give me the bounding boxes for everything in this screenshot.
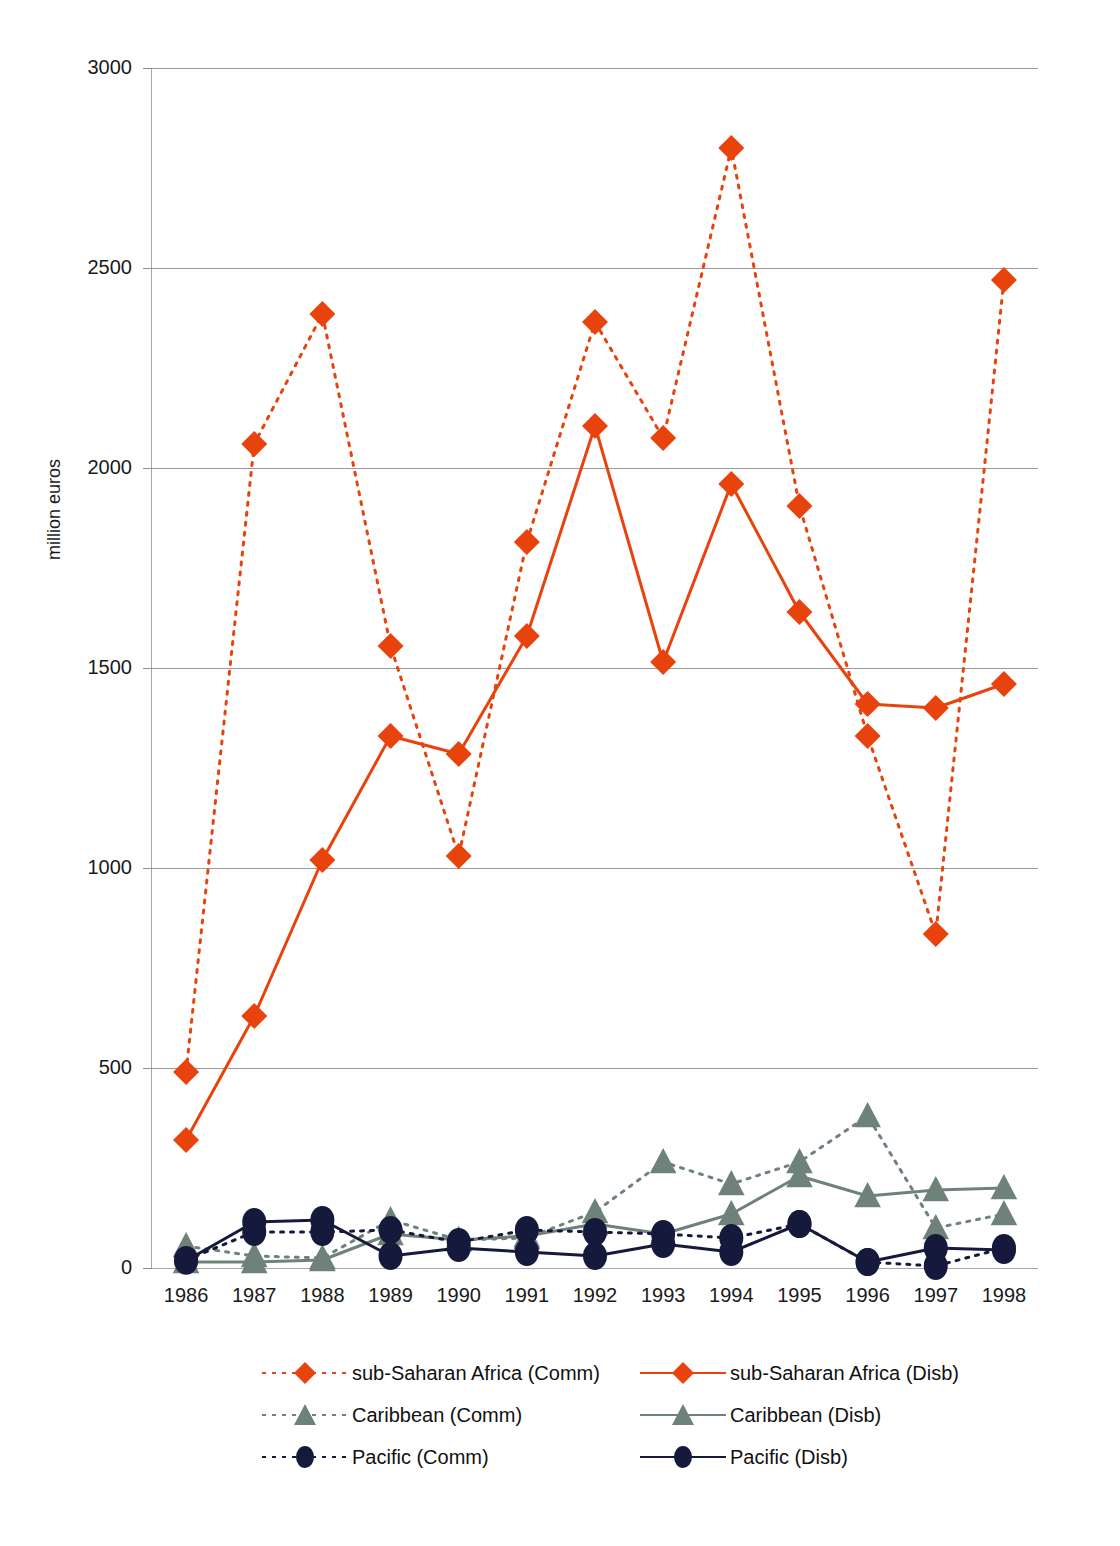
y-tick-mark bbox=[143, 868, 152, 869]
x-tick-label: 1998 bbox=[964, 1284, 1044, 1307]
legend-item-pacific-comm[interactable]: Pacific (Comm) bbox=[262, 1436, 489, 1478]
legend-label: Pacific (Disb) bbox=[726, 1446, 848, 1469]
legend-item-caribbean-comm[interactable]: Caribbean (Comm) bbox=[262, 1394, 522, 1436]
series-sub-saharan-africa-disb bbox=[173, 413, 1017, 1153]
legend-row: sub-Saharan Africa (Comm) sub-Saharan Af… bbox=[262, 1352, 962, 1394]
y-tick-label: 1000 bbox=[62, 857, 132, 877]
legend-row: Pacific (Comm) Pacific (Disb) bbox=[262, 1436, 962, 1478]
legend-label: Caribbean (Disb) bbox=[726, 1404, 881, 1427]
gridline bbox=[152, 268, 1038, 269]
legend-swatch-pacific-comm-icon bbox=[262, 1444, 348, 1470]
series-pacific-disb bbox=[174, 1206, 1016, 1276]
y-tick-label: 0 bbox=[62, 1257, 132, 1277]
y-tick-label: 2000 bbox=[62, 457, 132, 477]
legend-label: sub-Saharan Africa (Comm) bbox=[348, 1362, 600, 1385]
gridline bbox=[152, 668, 1038, 669]
legend-item-pacific-disb[interactable]: Pacific (Disb) bbox=[640, 1436, 848, 1478]
series-sub-saharan-africa-comm bbox=[173, 135, 1017, 1085]
legend-row: Caribbean (Comm) Caribbean (Disb) bbox=[262, 1394, 962, 1436]
y-tick-mark bbox=[143, 1268, 152, 1269]
legend-label: sub-Saharan Africa (Disb) bbox=[726, 1362, 959, 1385]
gridline bbox=[152, 1068, 1038, 1069]
legend-item-caribbean-disb[interactable]: Caribbean (Disb) bbox=[640, 1394, 881, 1436]
gridline bbox=[152, 68, 1038, 69]
y-tick-mark bbox=[143, 668, 152, 669]
y-tick-mark bbox=[143, 468, 152, 469]
legend-item-ssa-comm[interactable]: sub-Saharan Africa (Comm) bbox=[262, 1352, 600, 1394]
legend-swatch-ssa-comm-icon bbox=[262, 1360, 348, 1386]
series-pacific-comm bbox=[174, 1210, 1016, 1280]
legend-swatch-caribbean-disb-icon bbox=[640, 1402, 726, 1428]
chart-plot bbox=[0, 0, 1120, 1546]
y-tick-mark bbox=[143, 68, 152, 69]
y-tick-mark bbox=[143, 1068, 152, 1069]
y-tick-label: 3000 bbox=[62, 57, 132, 77]
series-caribbean-disb bbox=[173, 1162, 1017, 1273]
gridline bbox=[152, 468, 1038, 469]
y-tick-mark bbox=[143, 268, 152, 269]
legend-label: Pacific (Comm) bbox=[348, 1446, 489, 1469]
chart-page: million euros 050010001500200025003000 1… bbox=[0, 0, 1120, 1546]
legend-swatch-ssa-disb-icon bbox=[640, 1360, 726, 1386]
series-caribbean-comm bbox=[173, 1102, 1017, 1269]
legend-swatch-caribbean-comm-icon bbox=[262, 1402, 348, 1428]
gridline bbox=[152, 868, 1038, 869]
legend-label: Caribbean (Comm) bbox=[348, 1404, 522, 1427]
chart-legend: sub-Saharan Africa (Comm) sub-Saharan Af… bbox=[262, 1352, 962, 1478]
y-tick-label: 500 bbox=[62, 1057, 132, 1077]
legend-item-ssa-disb[interactable]: sub-Saharan Africa (Disb) bbox=[640, 1352, 959, 1394]
y-tick-label: 2500 bbox=[62, 257, 132, 277]
legend-swatch-pacific-disb-icon bbox=[640, 1444, 726, 1470]
x-axis-line bbox=[152, 1268, 1038, 1269]
y-tick-label: 1500 bbox=[62, 657, 132, 677]
